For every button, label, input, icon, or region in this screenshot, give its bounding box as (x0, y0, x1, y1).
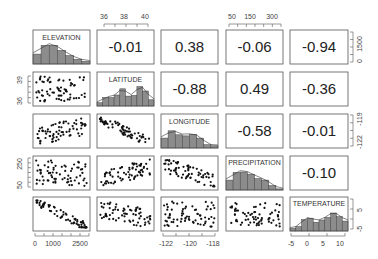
data-point (40, 206, 42, 208)
corr-longitude-temperature: -0.01 (302, 122, 336, 139)
corr-precipitation-temperature: -0.10 (302, 164, 336, 181)
data-point (47, 93, 49, 95)
data-point (139, 225, 141, 227)
data-point (71, 83, 73, 85)
data-point (193, 222, 195, 224)
data-point (81, 172, 83, 174)
data-point (56, 98, 58, 100)
data-point (163, 204, 165, 206)
data-point (44, 76, 46, 78)
data-point (103, 203, 105, 205)
data-point (122, 178, 124, 180)
data-point (197, 223, 199, 225)
data-point (84, 224, 86, 226)
data-point (104, 173, 106, 175)
svg-text:300: 300 (266, 13, 278, 20)
data-point (60, 99, 62, 101)
label-longitude: LONGITUDE (169, 118, 210, 125)
data-point (45, 133, 47, 135)
histogram-bar (148, 100, 154, 106)
data-point (47, 80, 49, 82)
data-point (186, 215, 188, 217)
data-point (205, 176, 207, 178)
data-point (200, 169, 202, 171)
data-point (182, 208, 184, 210)
data-point (169, 173, 171, 175)
data-point (56, 210, 58, 212)
data-point (69, 134, 71, 136)
svg-text:40: 40 (141, 13, 149, 20)
histogram-bar (255, 179, 262, 190)
data-point (39, 127, 41, 129)
data-point (49, 172, 51, 174)
data-point (66, 131, 68, 133)
data-point (123, 215, 125, 217)
data-point (44, 130, 46, 132)
data-point (126, 126, 128, 128)
data-point (253, 218, 255, 220)
data-point (204, 222, 206, 224)
data-point (49, 88, 51, 90)
data-point (263, 207, 265, 209)
data-point (134, 175, 136, 177)
data-point (173, 218, 175, 220)
data-point (136, 206, 138, 208)
data-point (186, 175, 188, 177)
data-point (78, 224, 80, 226)
data-point (212, 222, 214, 224)
data-point (168, 168, 170, 170)
data-point (192, 167, 194, 169)
data-point (194, 219, 196, 221)
corr-latitude-temperature: -0.36 (302, 80, 336, 97)
data-point (67, 178, 69, 180)
data-point (258, 224, 260, 226)
panel-r4-c1 (97, 197, 154, 231)
data-point (38, 91, 40, 93)
data-point (144, 141, 146, 143)
data-point (36, 170, 38, 172)
data-point (61, 131, 63, 133)
data-point (197, 174, 199, 176)
svg-text:38: 38 (120, 13, 128, 20)
data-point (59, 95, 61, 97)
data-point (205, 201, 207, 203)
data-point (109, 214, 111, 216)
data-point (131, 174, 133, 176)
data-point (119, 177, 121, 179)
data-point (136, 137, 138, 139)
data-point (72, 128, 74, 130)
data-point (46, 91, 48, 93)
data-point (181, 210, 183, 212)
data-point (56, 136, 58, 138)
data-point (180, 218, 182, 220)
histogram-bar (262, 180, 269, 190)
data-point (259, 203, 261, 205)
data-point (65, 214, 67, 216)
data-point (73, 85, 75, 87)
data-point (167, 206, 169, 208)
data-point (168, 159, 170, 161)
data-point (51, 91, 53, 93)
data-point (100, 117, 102, 119)
histogram-bar (120, 89, 126, 106)
data-point (114, 208, 116, 210)
data-point (76, 128, 78, 130)
data-point (51, 176, 53, 178)
data-point (136, 165, 138, 167)
data-point (105, 213, 107, 215)
data-point (65, 120, 67, 122)
data-point (129, 174, 131, 176)
data-point (244, 213, 246, 215)
data-point (135, 224, 137, 226)
data-point (234, 213, 236, 215)
data-point (83, 177, 85, 179)
data-point (121, 214, 123, 216)
data-point (109, 174, 111, 176)
data-point (144, 224, 146, 226)
data-point (83, 185, 85, 187)
svg-text:39: 39 (16, 76, 23, 84)
data-point (125, 173, 127, 175)
data-point (76, 221, 78, 223)
histogram-bar (131, 95, 137, 106)
svg-text:-5: -5 (356, 226, 363, 232)
